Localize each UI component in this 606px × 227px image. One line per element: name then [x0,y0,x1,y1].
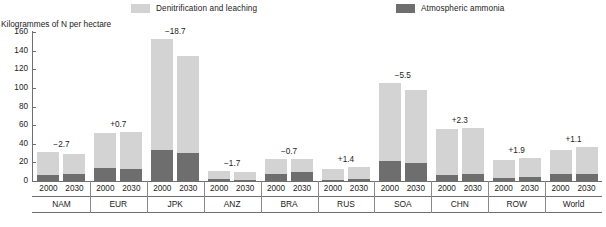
bar-delta-label: +1.9 [483,146,551,155]
y-axis-tick-value: 0 [2,177,28,185]
bar-segment-denitrification [576,147,598,173]
stacked-bar [493,160,515,181]
bar-delta-label: −2.7 [27,140,95,149]
x-axis-baseline [32,181,602,182]
stacked-bar [265,159,287,181]
bar-segment-ammonia [94,168,116,181]
y-axis-tick-value: 100 [2,84,28,92]
bar-segment-ammonia [63,174,85,181]
x-axis-group-label: EUR [90,199,147,210]
bar-segment-denitrification [37,152,59,175]
bar-segment-ammonia [576,174,598,181]
y-axis-tick-value: 140 [2,47,28,55]
x-axis-year-label: 2030 [173,184,203,194]
bar-segment-denitrification [120,132,142,169]
chart-bottom-border [32,212,602,213]
x-axis-year-label: 2030 [116,184,146,194]
y-axis-tick-value: 120 [2,65,28,73]
bar-segment-denitrification [291,159,313,172]
bar-segment-ammonia [234,180,256,181]
stacked-bar [519,158,541,181]
stacked-bar [576,147,598,181]
x-axis-year-label: 2030 [515,184,545,194]
x-axis-group-label: ROW [488,199,545,210]
bar-delta-label: −1.7 [198,159,266,168]
x-axis-group-label: CHN [431,199,488,210]
x-axis-group-label: NAM [33,199,90,210]
y-axis-tick [32,32,36,33]
bar-segment-denitrification [348,167,370,179]
stacked-bar [94,133,116,181]
bar-segment-ammonia [208,179,230,181]
bar-segment-denitrification [208,171,230,179]
bar-segment-ammonia [322,180,344,181]
x-axis-group-label: ANZ [204,199,261,210]
bar-segment-denitrification [462,128,484,174]
stacked-bar [120,132,142,181]
bar-segment-denitrification [493,160,515,179]
stacked-bar [462,128,484,181]
stacked-bar [436,129,458,181]
x-axis-year-label: 2030 [344,184,374,194]
stacked-bar [348,167,370,181]
bar-segment-denitrification [94,133,116,169]
y-axis-tick-value: 160 [2,28,28,36]
y-axis-tick [32,162,36,163]
bar-segment-ammonia [265,174,287,181]
bar-segment-denitrification [519,158,541,178]
bar-segment-ammonia [120,169,142,181]
bar-delta-label: +0.7 [84,120,152,129]
bar-segment-ammonia [37,175,59,181]
bar-segment-denitrification [63,154,85,174]
stacked-bar [63,154,85,181]
bar-segment-ammonia [550,174,572,181]
bar-segment-denitrification [550,150,572,174]
x-axis-year-label: 2030 [287,184,317,194]
bar-segment-ammonia [177,153,199,181]
y-axis-tick [32,69,36,70]
bar-delta-label: +2.3 [426,116,494,125]
x-axis-year-label: 2030 [572,184,602,194]
bar-segment-denitrification [151,39,173,151]
bar-segment-denitrification [436,129,458,175]
bar-segment-denitrification [379,83,401,161]
bar-segment-denitrification [177,56,199,153]
x-axis-group-label: SOA [374,199,431,210]
x-axis-year-label: 2030 [401,184,431,194]
y-axis-tick [32,181,36,182]
stacked-bar [151,39,173,181]
y-axis-tick-value: 60 [2,121,28,129]
x-axis-year-label: 2030 [458,184,488,194]
x-axis-group-label: JPK [147,199,204,210]
x-axis-group-label: World [545,199,602,210]
bar-segment-denitrification [322,169,344,180]
stacked-bar [37,152,59,181]
bar-segment-ammonia [436,175,458,181]
bar-delta-label: −18.7 [141,27,209,36]
bar-segment-ammonia [405,163,427,181]
bar-segment-denitrification [265,159,287,174]
bar-delta-label: −5.5 [369,71,437,80]
y-axis-tick-value: 40 [2,140,28,148]
y-axis-tick [32,107,36,108]
plot-area: 020406080100120140160 20002030−2.7NAM200… [0,0,606,227]
x-axis-year-label: 2030 [59,184,89,194]
y-axis-tick-value: 80 [2,103,28,111]
bar-segment-ammonia [151,150,173,181]
stacked-bar [405,90,427,181]
bar-segment-denitrification [405,90,427,164]
bar-segment-denitrification [234,172,256,179]
bar-delta-label: +1.4 [312,155,380,164]
stacked-bar [177,56,199,181]
y-axis-tick-value: 20 [2,158,28,166]
y-axis-tick [32,88,36,89]
stacked-bar [379,83,401,181]
stacked-bar [208,171,230,181]
bar-segment-ammonia [493,178,515,181]
y-axis-tick [32,125,36,126]
x-axis-group-label: RUS [318,199,375,210]
stacked-bar [322,169,344,181]
y-axis-tick [32,51,36,52]
x-axis-year-label: 2030 [230,184,260,194]
bar-segment-ammonia [379,161,401,181]
